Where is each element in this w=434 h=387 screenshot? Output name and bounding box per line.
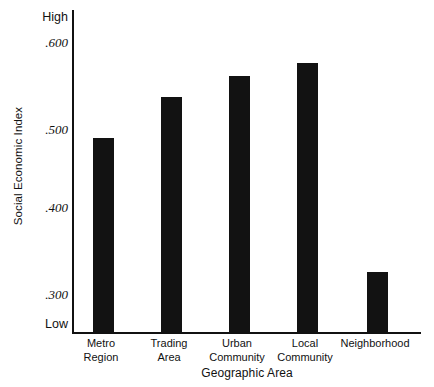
- y-axis-tick-600: .600: [22, 37, 68, 49]
- bar-metro-region: [93, 138, 114, 332]
- plot-area: [74, 10, 421, 332]
- y-axis-tick-300: .300: [22, 289, 68, 301]
- bar-chart-figure: Social Economic Index High .600 .500 .40…: [0, 0, 434, 387]
- x-axis-tick-labels: Metro Region Trading Area Urban Communit…: [72, 337, 422, 367]
- y-axis-tick-500: .500: [22, 124, 68, 136]
- y-axis-tick-400: .400: [22, 202, 68, 214]
- bar-neighborhood: [367, 272, 388, 332]
- bar-local-community: [297, 63, 318, 332]
- y-axis-low-label: Low: [22, 318, 68, 330]
- bar-trading-area: [161, 97, 182, 332]
- y-axis-tick-labels: High .600 .500 .400 .300 Low: [20, 0, 68, 387]
- y-axis-high-label: High: [22, 11, 68, 23]
- x-axis-tick-line1: Neighborhood: [329, 337, 421, 351]
- x-axis-title: Geographic Area: [72, 366, 422, 380]
- bar-urban-community: [229, 76, 250, 332]
- x-axis-tick-line2: Community: [259, 351, 351, 365]
- x-axis-tick-neighborhood: Neighborhood: [329, 337, 421, 351]
- x-axis-line: [72, 332, 421, 334]
